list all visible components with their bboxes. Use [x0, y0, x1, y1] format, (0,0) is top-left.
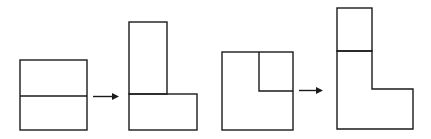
corner-notch [259, 52, 293, 91]
horizontal-rectangle [129, 94, 197, 130]
l-shape-base [337, 51, 413, 129]
panel-1-after-l-shape [129, 22, 197, 130]
transformation-diagram [0, 0, 431, 139]
arrow-right-icon [299, 87, 323, 94]
outer-square [20, 60, 87, 130]
top-small-square [337, 8, 372, 51]
panel-2-before-notched-square [222, 52, 293, 130]
panel-2-after-l-shape [337, 8, 413, 129]
panel-1-before-square [20, 60, 87, 130]
arrow-right-icon [93, 93, 119, 100]
vertical-rectangle [129, 22, 167, 94]
